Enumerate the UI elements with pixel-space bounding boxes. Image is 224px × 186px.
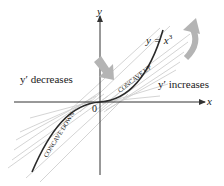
- x-axis-label: x: [207, 96, 212, 107]
- right-annotation: y′ increases: [158, 79, 209, 90]
- curved-arrow-icon: [183, 18, 200, 58]
- down-arrow-icon: [94, 56, 114, 80]
- y-axis-label: y: [97, 6, 102, 17]
- left-annotation-text: y′ decreases: [20, 73, 73, 85]
- diagram-canvas: CONCAVE UP CONCAVE DOWN: [0, 0, 224, 186]
- right-annotation-text: y′ increases: [158, 78, 209, 90]
- origin-label: 0: [92, 104, 97, 114]
- function-label-text: y = x: [146, 34, 169, 46]
- function-exponent: 3: [169, 33, 173, 41]
- tangent-lines-lower: [8, 92, 128, 182]
- function-label: y = x3: [146, 34, 172, 46]
- left-annotation: y′ decreases: [20, 74, 73, 85]
